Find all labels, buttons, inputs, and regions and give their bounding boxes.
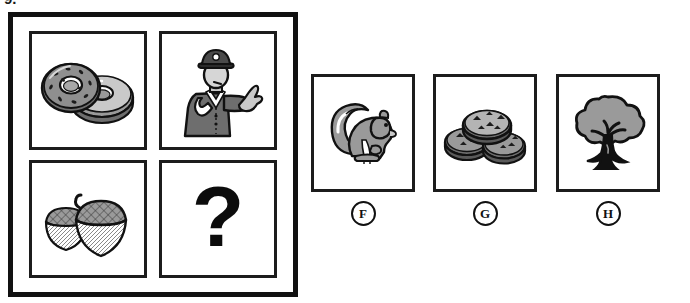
answer-option-f-box[interactable] xyxy=(311,74,415,192)
question-mark-icon: ? xyxy=(192,180,245,253)
answer-option-f[interactable]: F xyxy=(311,74,415,226)
analogy-matrix-frame: ? xyxy=(8,12,298,297)
analogy-matrix-grid: ? xyxy=(13,17,293,292)
question-number: 9. xyxy=(4,0,17,6)
donuts-icon xyxy=(36,52,140,128)
answer-option-g-letter: G xyxy=(473,201,498,226)
answer-option-g[interactable]: G xyxy=(433,74,537,226)
matrix-cell-bottom-right: ? xyxy=(159,160,277,279)
answer-option-f-letter: F xyxy=(351,201,376,226)
acorns-icon xyxy=(36,176,140,262)
answer-option-g-box[interactable] xyxy=(433,74,537,192)
squirrel-icon xyxy=(322,92,404,174)
answer-option-h[interactable]: H xyxy=(556,74,660,226)
answer-option-h-box[interactable] xyxy=(556,74,660,192)
worksheet-page: 9. xyxy=(0,0,690,303)
matrix-cell-top-right xyxy=(159,31,277,150)
answer-option-h-letter: H xyxy=(596,201,621,226)
matrix-cell-top-left xyxy=(29,31,147,150)
matrix-cell-bottom-left xyxy=(29,160,147,279)
police-officer-icon xyxy=(166,38,270,142)
tree-icon xyxy=(566,91,650,175)
cookies-icon xyxy=(442,98,528,168)
answer-options: F xyxy=(308,74,680,234)
